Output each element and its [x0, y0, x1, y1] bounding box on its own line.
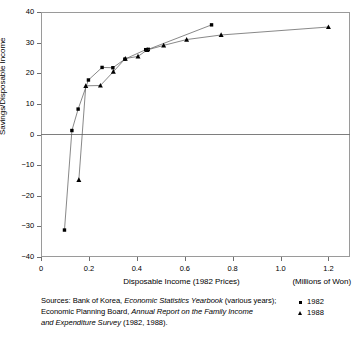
y-tick-mark	[37, 226, 41, 227]
x-tick-label: 1.0	[275, 265, 285, 273]
plot-area: −40−30−20−1001020304000.20.40.60.81.01.2	[41, 12, 350, 257]
sources-line-2-prefix: Economic Planning Board,	[41, 307, 131, 316]
data-point-square	[210, 23, 213, 26]
legend-item-1982: 1982	[296, 296, 324, 307]
y-tick-label: −10	[22, 161, 34, 169]
x-tick-mark	[233, 257, 234, 261]
sources-line-3: and Expenditure Survey (1982, 1988).	[41, 317, 363, 328]
data-point-triangle	[326, 24, 331, 29]
legend-item-1988: 1988	[296, 307, 324, 318]
x-tick-label: 0	[39, 265, 43, 273]
y-tick-mark	[37, 196, 41, 197]
y-tick-label: 30	[26, 39, 34, 47]
legend-label-1982: 1982	[307, 296, 324, 307]
sources-line-1-title: Economic Statistics Yearbook	[124, 296, 223, 305]
data-point-triangle	[136, 54, 141, 59]
sources-line-2-title: Annual Report on the Family Income	[131, 307, 253, 316]
y-tick-mark	[37, 104, 41, 105]
y-tick-mark	[37, 73, 41, 74]
square-marker-icon	[296, 298, 303, 306]
y-axis-label: Savings/Disposable Income	[0, 0, 7, 135]
data-point-square	[63, 228, 66, 231]
y-tick-mark	[37, 165, 41, 166]
data-point-square	[76, 107, 79, 110]
y-tick-mark	[37, 12, 41, 13]
chart-figure: −40−30−20−1001020304000.20.40.60.81.01.2…	[0, 0, 363, 341]
y-tick-mark	[37, 135, 41, 136]
data-point-square	[111, 66, 114, 69]
data-point-square	[70, 129, 73, 132]
x-tick-mark	[89, 257, 90, 261]
sources-line-1-prefix: Sources: Bank of Korea,	[41, 296, 124, 305]
y-tick-label: −40	[22, 253, 34, 261]
sources-line-3-suffix: (1982, 1988).	[121, 318, 168, 327]
y-tick-label: 40	[26, 8, 34, 16]
legend: 1982 1988	[296, 296, 324, 318]
x-axis-units-label: (Millions of Won)	[292, 277, 351, 286]
y-tick-label: 0	[30, 131, 34, 139]
sources-line-1-suffix: (various years);	[223, 296, 277, 305]
x-tick-mark	[41, 257, 42, 261]
y-tick-label: 10	[26, 100, 34, 108]
x-tick-label: 1.2	[323, 265, 333, 273]
data-layer	[41, 12, 350, 257]
x-tick-mark	[137, 257, 138, 261]
x-tick-label: 0.4	[132, 265, 142, 273]
data-point-square	[100, 66, 103, 69]
data-point-square	[87, 78, 90, 81]
x-tick-label: 0.8	[228, 265, 238, 273]
y-tick-label: 20	[26, 70, 34, 78]
triangle-marker-icon	[296, 309, 303, 317]
x-tick-label: 0.2	[84, 265, 94, 273]
series-line-1988	[79, 27, 329, 180]
x-tick-mark	[328, 257, 329, 261]
series-1988	[76, 24, 331, 182]
y-tick-mark	[37, 43, 41, 44]
x-tick-mark	[281, 257, 282, 261]
legend-label-1988: 1988	[307, 307, 324, 318]
y-tick-label: −20	[22, 192, 34, 200]
y-tick-label: −30	[22, 223, 34, 231]
sources-line-3-title: and Expenditure Survey	[41, 318, 121, 327]
data-point-triangle	[76, 177, 81, 182]
x-tick-mark	[185, 257, 186, 261]
x-tick-label: 0.6	[180, 265, 190, 273]
